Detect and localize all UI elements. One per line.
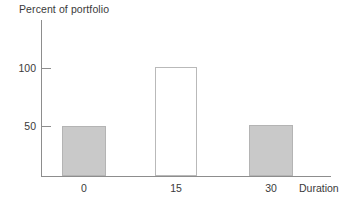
chart-canvas: Percent of portfolio 100 50 0 15 30 Dura… <box>0 0 357 206</box>
y-axis-title: Percent of portfolio <box>19 3 109 15</box>
bar-30 <box>249 125 293 176</box>
x-tick-label-0: 0 <box>81 182 87 194</box>
x-axis-line <box>41 176 331 177</box>
x-tick-label-15: 15 <box>170 182 182 194</box>
y-tick-label-100: 100 <box>8 62 36 74</box>
y-tick-100 <box>41 68 51 69</box>
bar-15 <box>155 67 197 176</box>
x-axis-title: Duration <box>299 182 339 194</box>
y-tick-label-50: 50 <box>8 120 36 132</box>
x-tick-label-30: 30 <box>265 182 277 194</box>
y-axis-line <box>41 20 42 177</box>
bar-0 <box>62 126 106 176</box>
y-tick-50 <box>41 126 51 127</box>
